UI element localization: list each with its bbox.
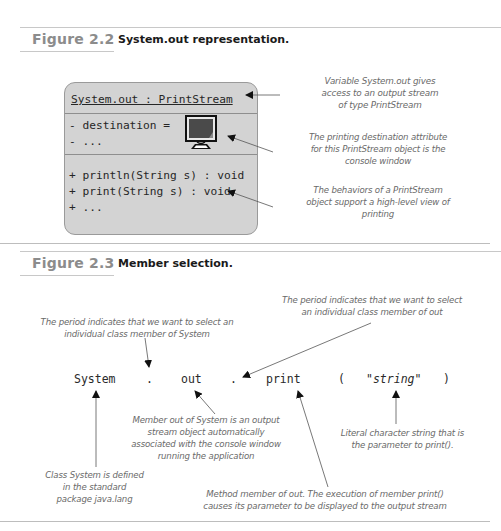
arrows-layer [0, 0, 501, 531]
arrow-to-destination [228, 136, 273, 152]
arrow-to-methods [228, 191, 273, 207]
arrow-to-out [195, 391, 215, 414]
arrow-to-period-1 [145, 338, 149, 367]
arrow-to-print [298, 391, 328, 487]
arrow-to-period-2 [243, 323, 371, 377]
